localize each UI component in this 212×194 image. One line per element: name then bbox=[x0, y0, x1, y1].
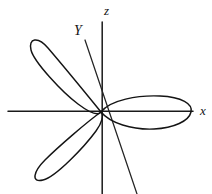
y-axis-line bbox=[85, 40, 137, 194]
y-axis-label: Y bbox=[74, 23, 84, 38]
orbital-lobe-figure: z Y x bbox=[0, 0, 212, 194]
lobe-lower-left bbox=[35, 112, 102, 180]
lobe-right bbox=[101, 96, 191, 129]
x-axis-label: x bbox=[199, 103, 206, 118]
figure-canvas: z Y x bbox=[0, 0, 212, 194]
lobe-upper-left bbox=[30, 40, 101, 114]
z-axis-label: z bbox=[103, 3, 109, 18]
